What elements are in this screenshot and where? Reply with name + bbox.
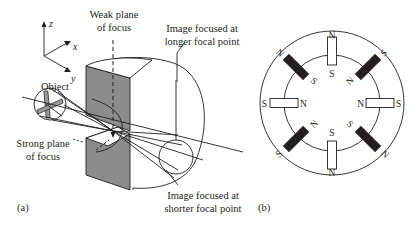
- z-arrow-icon: [42, 21, 47, 27]
- svg-text:N: N: [344, 75, 356, 87]
- svg-text:N: N: [329, 168, 336, 178]
- strong-leader: [73, 139, 83, 142]
- upper-pole-block: [86, 58, 152, 131]
- strong-plane-label-1: Strong plane: [16, 138, 70, 149]
- axis-z-label: z: [48, 18, 53, 29]
- magnet-right: N S: [357, 99, 401, 110]
- image-circle: [159, 80, 193, 174]
- magnet-bottom-left: [283, 126, 308, 151]
- x-arrow-icon: [64, 41, 71, 46]
- strong-plane-label-2: of focus: [26, 151, 60, 162]
- magnet-bottom-right: [355, 126, 380, 151]
- longer-focal-label-1: Image focused at: [166, 23, 238, 34]
- svg-text:N: N: [328, 29, 335, 39]
- magnet-left: S N: [262, 99, 307, 110]
- svg-text:N: N: [300, 99, 307, 109]
- figure-canvas: z x y: [0, 0, 416, 225]
- object-label: Object: [41, 81, 69, 92]
- shorter-focal-label-1: Image focused at: [167, 190, 239, 201]
- svg-text:N: N: [308, 118, 320, 130]
- axis-x-label: x: [72, 41, 78, 52]
- weak-plane-label-2: of focus: [97, 22, 131, 33]
- longer-leader: [177, 43, 184, 82]
- svg-text:S: S: [262, 99, 267, 109]
- magnet-top-left: [283, 54, 308, 79]
- panel-a-quadrupole-lens: z x y: [16, 9, 243, 214]
- magnet-bottom: S N: [328, 128, 337, 178]
- svg-text:N: N: [357, 99, 364, 109]
- svg-text:S: S: [345, 119, 356, 130]
- magnet-top: N S: [328, 29, 337, 79]
- svg-text:S: S: [274, 149, 285, 160]
- panel-a-label: (a): [17, 202, 29, 214]
- svg-text:S: S: [329, 69, 334, 79]
- weak-plane-label-1: Weak plane: [89, 9, 138, 20]
- longer-focal-label-2: longer focal point: [165, 36, 240, 47]
- svg-text:N: N: [379, 148, 391, 160]
- lower-pole-block: [86, 127, 130, 190]
- svg-text:S: S: [396, 99, 401, 109]
- axis-y-label: y: [70, 73, 76, 84]
- shorter-focal-label-2: shorter focal point: [165, 203, 242, 214]
- coordinate-axes: z x y: [42, 18, 79, 84]
- svg-text:S: S: [309, 76, 320, 87]
- svg-text:S: S: [329, 128, 334, 138]
- panel-b-label: (b): [258, 202, 271, 214]
- panel-b-magnet-ring: N S S N S N N S N S S N: [258, 29, 404, 214]
- magnet-top-right: [355, 54, 380, 79]
